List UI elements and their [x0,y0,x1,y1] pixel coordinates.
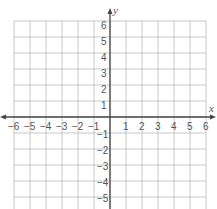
y-axis-up-arrow-icon [108,8,113,14]
x-tick-label: −5 [24,121,36,132]
x-axis-right-arrow-icon [210,115,216,120]
y-axis-label: y [112,4,118,16]
y-tick-label: −2 [97,145,109,156]
x-tick-label: 6 [203,121,209,132]
y-tick-label: 2 [101,84,107,95]
x-tick-label: 2 [139,121,145,132]
y-tick-label: 3 [101,68,107,79]
x-axis: x [0,102,216,120]
y-tick-label: 1 [101,100,107,111]
y-tick-label: 4 [101,52,107,63]
x-tick-label: −2 [72,121,84,132]
y-tick-label: 6 [101,20,107,31]
y-tick-label: −4 [97,177,109,188]
y-tick-label: −3 [97,161,109,172]
y-tick-labels: 6 5 4 3 2 1 −1 −2 −3 −4 −5 −6 [97,20,109,209]
y-tick-label: −1 [97,129,109,140]
x-tick-label: −4 [40,121,52,132]
x-tick-label: 5 [187,121,193,132]
x-tick-label: 4 [171,121,177,132]
y-tick-label: 5 [101,36,107,47]
x-tick-label: −3 [56,121,68,132]
y-axis: y [108,4,119,209]
x-tick-label: −6 [8,121,20,132]
x-tick-label: 1 [123,121,129,132]
x-tick-labels: −6 −5 −4 −3 −2 −1 1 2 3 4 5 6 [8,121,209,132]
y-tick-label: −5 [97,193,109,204]
x-axis-label: x [208,102,214,114]
coordinate-plane: x y −6 −5 −4 −3 −2 −1 1 2 3 4 5 6 6 5 4 … [0,0,217,209]
x-tick-label: 3 [155,121,161,132]
x-axis-left-arrow-icon [0,115,6,120]
